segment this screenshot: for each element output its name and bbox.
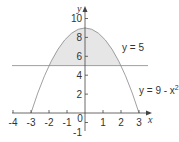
x-tick-label: -3: [27, 117, 36, 128]
curve-annotation-text: y = 9 - x: [139, 85, 175, 96]
y-axis-label: y: [76, 3, 82, 14]
x-tick-label: -4: [9, 117, 18, 128]
x-tick-label: -2: [45, 117, 54, 128]
x-tick-label: 1: [100, 117, 106, 128]
x-tick-label: 2: [118, 117, 124, 128]
curve-annotation-exponent: 2: [175, 84, 179, 91]
x-tick-label: 3: [136, 117, 142, 128]
y-tick-label: 10: [71, 13, 83, 24]
x-tick-label: 0: [77, 113, 83, 124]
x-tick-label: -1: [63, 117, 72, 128]
line-annotation: y = 5: [122, 42, 144, 53]
y-tick-label: 8: [76, 32, 82, 43]
chart: -4 -3 -2 -1 0 1 2 3 10 8 6 4 2 -1 x y y …: [0, 0, 179, 142]
x-axis-label: x: [147, 114, 153, 125]
curve-annotation: y = 9 - x2: [139, 84, 179, 96]
chart-svg: -4 -3 -2 -1 0 1 2 3 10 8 6 4 2 -1 x y y …: [0, 0, 179, 142]
y-tick-label: -1: [73, 127, 82, 138]
y-axis-arrow-icon: [83, 6, 88, 12]
y-tick-label: 4: [76, 70, 82, 81]
y-tick-label: 6: [76, 51, 82, 62]
y-tick-label: 2: [76, 89, 82, 100]
